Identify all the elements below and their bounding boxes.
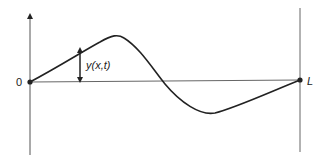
right-endpoint xyxy=(297,77,302,82)
string-waveform xyxy=(30,36,300,114)
string-wave-diagram xyxy=(0,0,324,163)
left-endpoint xyxy=(27,79,32,84)
end-label: L xyxy=(307,75,313,87)
displacement-label: y(x,t) xyxy=(86,59,110,71)
equilibrium-line xyxy=(30,80,300,82)
origin-label: 0 xyxy=(16,76,22,88)
